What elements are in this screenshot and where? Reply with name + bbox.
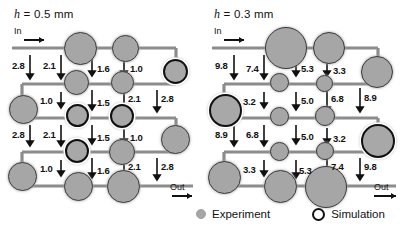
experiment-marker-icon [196, 209, 206, 219]
legend-item-simulation: Simulation [312, 208, 385, 221]
droplet-r4-c0-right [208, 161, 241, 194]
legend-label-experiment: Experiment [212, 208, 270, 220]
flow-value-r4-right-left: 2.8 [161, 161, 174, 172]
flow-value-r3-left-right: 8.9 [215, 129, 228, 140]
flow-value-r1-b-left: 1.6 [97, 63, 110, 74]
panel-title-rest-left: = 0.5 mm [20, 8, 73, 20]
panel-h-0-5: h = 0.5 mm In Out 2.8 2.1 1.6 1.0 1.0 1.… [0, 0, 205, 232]
inlet-label-right: In [214, 26, 222, 36]
figure-root: h = 0.5 mm In Out 2.8 2.1 1.6 1.0 1.0 1.… [0, 0, 411, 232]
inlet-arrow-right [224, 37, 244, 43]
flow-value-r3-b-right: 5.0 [301, 131, 314, 142]
droplet-sim-r1-right-left [163, 59, 188, 84]
outlet-arrow-left [172, 193, 192, 199]
flow-value-r3-a-left: 2.1 [43, 129, 56, 140]
droplet-sim-r3-c1-left [66, 104, 89, 127]
panel-title-rest-right: = 0.3 mm [220, 8, 273, 20]
inlet-arrow-left [24, 37, 44, 43]
flow-value-r4-left-right: 3.3 [243, 164, 256, 175]
droplet-r4-c1-right [270, 142, 289, 161]
droplet-r2-c2-left [111, 71, 134, 94]
flow-value-r1-b-right: 5.3 [301, 63, 314, 74]
flow-value-r2-b-right: 6.8 [331, 93, 344, 104]
droplet-r3-c1-right [270, 107, 289, 126]
droplet-r3-right-left [161, 125, 190, 154]
droplet-r2-c0-left [9, 95, 38, 124]
panel-h-0-3: h = 0.3 mm In Out 9.8 7.4 5.3 3.3 3.2 5.… [206, 0, 411, 232]
flow-value-r3-c-left: 1.0 [130, 132, 143, 143]
droplet-r5-c2-left [107, 170, 140, 203]
droplet-r3-c2-right [315, 106, 335, 126]
flow-value-r3-left-left: 2.8 [12, 129, 25, 140]
droplet-r5-c1-left [64, 172, 93, 201]
droplet-sim-r3-c3-right [361, 124, 395, 158]
flow-value-r1-a-left: 2.1 [43, 60, 56, 71]
outlet-label-right: Out [374, 182, 389, 192]
flow-value-r3-a-right: 6.8 [246, 129, 259, 140]
flow-value-r1-c-right: 3.3 [333, 65, 346, 76]
outlet-label-left: Out [170, 182, 185, 192]
simulation-marker-icon [312, 208, 325, 221]
flow-value-r4-a-right: 5.3 [299, 165, 312, 176]
droplet-r2-c2-right [316, 75, 333, 92]
droplet-sim-r4-c1-left [65, 139, 89, 163]
flow-value-r1-left-left: 2.8 [12, 60, 25, 71]
droplet-r4-c0-left [8, 162, 37, 191]
panel-title-right: h = 0.3 mm [214, 7, 273, 22]
legend: Experiment Simulation [196, 203, 411, 225]
droplet-r2-c1-right [270, 73, 289, 92]
droplet-sim-r2-c0-right [209, 94, 242, 127]
flow-value-r1-a-right: 7.4 [246, 63, 259, 74]
inlet-label-left: In [14, 26, 22, 36]
panel-title-left: h = 0.5 mm [14, 7, 73, 22]
flow-value-r3-c-right: 3.2 [333, 133, 346, 144]
flow-value-r1-left-right: 9.8 [215, 60, 228, 71]
droplet-r1-c1-left [64, 32, 97, 65]
flow-value-r2-a-right: 5.0 [301, 95, 314, 106]
droplet-r5-c1-right [264, 170, 297, 203]
legend-item-experiment: Experiment [196, 208, 270, 220]
outlet-arrow-right [374, 193, 396, 199]
flow-value-r2-right-right: 8.9 [364, 92, 377, 103]
droplet-sim-r3-c2-left [110, 104, 134, 128]
flow-value-r3-b-left: 1.5 [97, 132, 110, 143]
droplet-r2-c1-left [64, 70, 89, 95]
flow-value-r2-a-left: 1.5 [97, 97, 110, 108]
droplet-r1-c3-right [361, 56, 393, 88]
flow-value-r2-left-right: 3.2 [243, 96, 256, 107]
flow-value-r2-left-left: 1.0 [40, 95, 53, 106]
flow-value-r4-left-left: 1.0 [40, 163, 53, 174]
flow-value-r1-c-left: 1.0 [130, 63, 143, 74]
droplet-r1-c2-left [112, 35, 139, 62]
flow-value-r2-b-left: 2.1 [128, 93, 141, 104]
droplet-r4-c2-right [316, 142, 334, 160]
legend-label-simulation: Simulation [331, 208, 385, 220]
flow-value-r2-right-left: 2.8 [161, 93, 174, 104]
flow-value-r4-b-right: 7.4 [331, 161, 344, 172]
flow-value-r4-a-left: 1.6 [97, 165, 110, 176]
flow-value-r4-right-right: 9.8 [364, 161, 377, 172]
flow-value-r4-b-left: 2.1 [128, 161, 141, 172]
droplet-r1-c2-right [313, 32, 345, 64]
